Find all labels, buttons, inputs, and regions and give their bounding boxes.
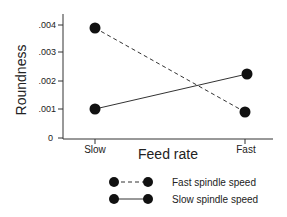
y-tick-0: 0 (48, 133, 53, 143)
y-tick-003: .003 (38, 47, 56, 57)
legend-item-slow: Slow spindle speed (109, 194, 258, 205)
legend-label-slow: Slow spindle speed (172, 194, 258, 205)
legend-label-fast: Fast spindle speed (172, 177, 256, 188)
series-slow-spindle (90, 69, 253, 115)
point-slow-fast (242, 69, 253, 80)
y-axis-label: Roundness (13, 45, 29, 116)
interaction-plot: 0 .001 .002 .003 .004 Slow Fast Feed rat… (0, 0, 287, 217)
legend-item-fast: Fast spindle speed (109, 177, 256, 188)
point-slow-slow (90, 104, 101, 115)
x-axis-label: Feed rate (138, 146, 198, 162)
y-tick-004: .004 (38, 20, 56, 30)
y-tick-002: .002 (38, 76, 56, 86)
y-ticks (58, 25, 63, 138)
point-fast-fast (240, 107, 251, 118)
x-tick-slow: Slow (84, 144, 106, 155)
x-tick-fast: Fast (236, 144, 256, 155)
y-tick-001: .001 (38, 104, 56, 114)
series-fast-spindle (90, 23, 251, 118)
legend: Fast spindle speed Slow spindle speed (109, 177, 258, 205)
point-fast-slow (90, 23, 101, 34)
